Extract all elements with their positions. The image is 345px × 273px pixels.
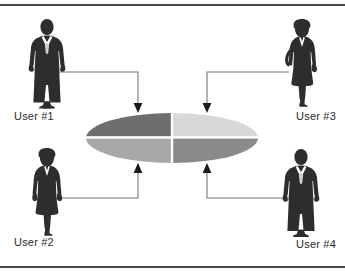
user-node-4-label: User #4 [262,238,340,250]
ellipse-quadrant-bottom-left [86,138,172,163]
central-shared-object[interactable] [86,113,258,163]
arrowhead-down-left [134,103,143,113]
user-node-2[interactable]: User #2 [8,148,86,248]
figure-root: User #1 User #2 [0,0,345,273]
user-node-4[interactable]: User #4 [262,148,340,250]
user-node-3[interactable]: User #3 [262,18,340,122]
user-node-1-label: User #1 [8,110,86,122]
ellipse-quadrant-top-left [86,113,172,138]
ellipse-quadrant-bottom-right [172,138,258,163]
bottom-rule [0,266,345,268]
top-rule [0,4,345,6]
user-node-1[interactable]: User #1 [8,18,86,122]
user-node-2-label: User #2 [8,236,86,248]
ellipse-divider-vertical [171,113,173,163]
businesswoman-silhouette-icon [278,18,324,110]
businessman-silhouette-icon [21,18,73,110]
arrowhead-up-right [203,163,212,173]
businessman-silhouette-icon [275,148,327,238]
ellipse-quadrant-top-right [172,113,258,138]
diagram-canvas: User #1 User #2 [0,8,345,264]
arrowhead-up-left [134,163,143,173]
businesswoman-silhouette-icon [24,148,70,236]
user-node-3-label: User #3 [262,110,340,122]
arrowhead-down-right [203,103,212,113]
